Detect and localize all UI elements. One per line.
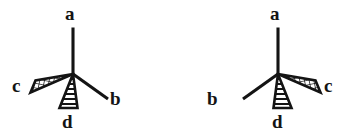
stereochemistry-figure: a b c d (0, 0, 349, 137)
right-label-d: d (272, 112, 283, 131)
right-structure-drawing (174, 0, 349, 137)
left-label-b: b (110, 89, 121, 108)
right-label-a: a (270, 4, 280, 23)
right-label-c: c (324, 76, 332, 95)
left-bond-b (73, 74, 108, 99)
left-label-c: c (12, 76, 20, 95)
left-structure-drawing (0, 0, 175, 137)
left-structure-panel: a b c d (0, 0, 175, 137)
left-label-a: a (65, 4, 75, 23)
left-label-d: d (62, 112, 73, 131)
right-label-b: b (207, 89, 218, 108)
right-bond-b (243, 74, 278, 99)
right-structure-panel: a b c d (174, 0, 349, 137)
